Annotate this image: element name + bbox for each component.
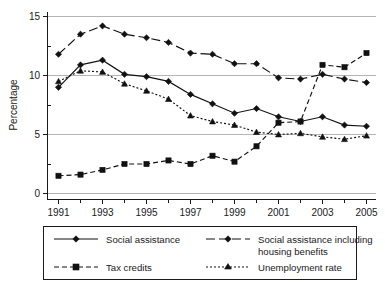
diamond-marker-icon	[143, 35, 149, 41]
y-tick-label-15: 15	[29, 11, 41, 22]
y-axis-title: Percentage	[8, 79, 19, 131]
diamond-marker-icon	[143, 74, 149, 80]
x-tick-label-1995: 1995	[135, 207, 158, 218]
diamond-marker-icon	[253, 61, 259, 67]
square-marker-icon	[276, 120, 281, 125]
square-marker-icon	[188, 161, 193, 166]
y-tick-label-10: 10	[29, 70, 41, 81]
square-marker-icon	[364, 50, 369, 55]
triangle-marker-icon	[122, 81, 128, 86]
diamond-marker-icon	[275, 114, 281, 120]
diamond-marker-icon	[341, 122, 347, 128]
y-axis: 15 10 5 0 Percentage	[8, 11, 51, 199]
triangle-marker-icon	[210, 119, 216, 124]
x-tick-label-1993: 1993	[91, 207, 114, 218]
x-tick-label-2005: 2005	[355, 207, 378, 218]
diamond-marker-icon	[209, 51, 215, 57]
legend-label-social-assistance-housing-line2: housing benefits	[258, 246, 328, 257]
diamond-marker-icon	[99, 23, 105, 29]
square-marker-icon	[56, 173, 61, 178]
chart-figure: 15 10 5 0 Percentage 1991 1993	[0, 0, 385, 286]
square-marker-icon	[100, 167, 105, 172]
x-axis: 1991 1993 1995 1997 1999 2001 2003 2005	[47, 200, 378, 219]
square-marker-icon	[166, 158, 171, 163]
legend-label-social-assistance-housing-line1: Social assistance including	[258, 234, 373, 245]
diamond-marker-icon	[319, 114, 325, 120]
legend-label-social-assistance: Social assistance	[106, 234, 180, 245]
diamond-marker-icon	[231, 110, 237, 116]
square-marker-icon	[342, 65, 347, 70]
triangle-marker-icon	[298, 130, 304, 135]
square-marker-icon	[320, 62, 325, 67]
legend: Social assistance Social assistance incl…	[44, 227, 373, 280]
square-marker-icon	[122, 161, 127, 166]
diamond-marker-icon	[187, 91, 193, 97]
triangle-marker-icon	[364, 133, 370, 138]
diamond-marker-icon	[363, 79, 369, 85]
diamond-marker-icon	[231, 61, 237, 67]
diamond-marker-icon	[165, 39, 171, 45]
legend-label-unemployment-rate: Unemployment rate	[258, 262, 342, 273]
series-layer	[55, 23, 369, 179]
diamond-marker-icon	[363, 123, 369, 129]
series-social-assistance-including-housing-benefits	[55, 23, 369, 86]
triangle-marker-icon	[56, 78, 62, 83]
square-marker-icon	[232, 159, 237, 164]
x-tick-label-1991: 1991	[47, 207, 70, 218]
triangle-marker-icon	[188, 113, 194, 118]
square-marker-icon	[210, 153, 215, 158]
square-marker-icon	[298, 119, 303, 124]
diamond-marker-icon	[297, 76, 303, 82]
diamond-marker-icon	[165, 78, 171, 84]
y-tick-label-5: 5	[34, 129, 40, 140]
diamond-marker-icon	[121, 31, 127, 37]
legend-label-tax-credits: Tax credits	[106, 262, 152, 273]
triangle-marker-icon	[78, 68, 84, 73]
line-chart: 15 10 5 0 Percentage 1991 1993	[0, 0, 385, 286]
triangle-marker-icon	[166, 96, 172, 101]
square-marker-icon	[144, 161, 149, 166]
x-tick-label-1999: 1999	[223, 207, 246, 218]
diamond-marker-icon	[341, 76, 347, 82]
diamond-marker-icon	[121, 71, 127, 77]
diamond-marker-icon	[187, 50, 193, 56]
diamond-marker-icon	[253, 105, 259, 111]
x-tick-label-2001: 2001	[267, 207, 290, 218]
y-tick-label-0: 0	[34, 188, 40, 199]
square-marker-icon	[254, 144, 259, 149]
triangle-marker-icon	[254, 129, 260, 134]
diamond-marker-icon	[319, 71, 325, 77]
diamond-marker-icon	[209, 101, 215, 107]
square-marker-icon	[78, 172, 83, 177]
x-tick-label-2003: 2003	[311, 207, 334, 218]
square-marker-icon	[73, 264, 79, 270]
diamond-marker-icon	[99, 57, 105, 63]
x-tick-label-1997: 1997	[179, 207, 202, 218]
